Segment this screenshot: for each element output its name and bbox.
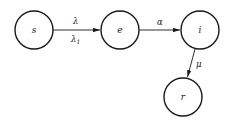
node-s-label: s xyxy=(32,25,37,35)
state-diagram: λ λ1 α μ s e i r xyxy=(0,0,232,124)
edge-label-mu: μ xyxy=(196,59,202,69)
edge-label-lambda-1: λ1 xyxy=(70,34,80,45)
arrow-i-r xyxy=(188,49,196,77)
node-e-label: e xyxy=(117,25,122,35)
edge-i-to-r: μ xyxy=(188,49,203,77)
edge-e-to-i: α xyxy=(139,17,180,30)
edge-label-lambda: λ xyxy=(72,16,78,26)
node-i: i xyxy=(181,11,219,49)
node-i-label: i xyxy=(199,25,202,35)
node-r-label: r xyxy=(181,92,186,102)
node-s: s xyxy=(15,11,53,49)
edge-s-to-e: λ λ1 xyxy=(53,16,100,45)
node-e: e xyxy=(101,11,139,49)
node-r: r xyxy=(164,78,202,116)
edge-label-alpha: α xyxy=(157,17,163,27)
